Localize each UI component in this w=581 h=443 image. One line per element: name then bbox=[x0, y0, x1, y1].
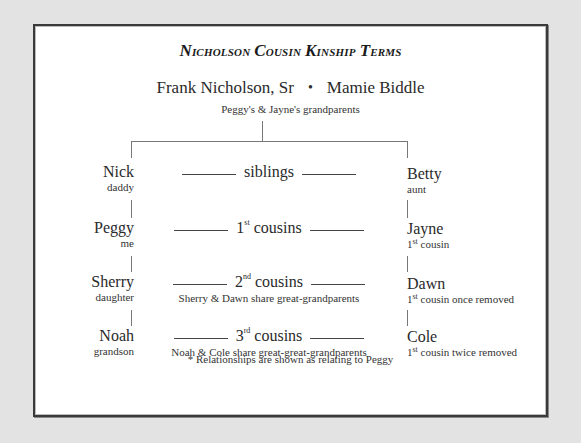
person-peggy: Peggy me bbox=[94, 219, 134, 249]
grandparents-caption: Peggy's & Jayne's grandparents bbox=[0, 103, 581, 115]
relationship-description: Sherry & Dawn share great-grandparents bbox=[150, 292, 388, 304]
connector-betty-jayne bbox=[407, 200, 408, 218]
person-jayne: Jayne 1st cousin bbox=[407, 220, 449, 250]
person-name: Sherry bbox=[91, 273, 134, 291]
connector-sherry-noah bbox=[131, 310, 132, 326]
connector-left-down bbox=[131, 141, 132, 158]
person-name: Peggy bbox=[94, 219, 134, 237]
person-relation: me bbox=[94, 237, 134, 249]
person-relation: aunt bbox=[407, 183, 442, 195]
connector-peggy-sherry bbox=[131, 256, 132, 272]
person-sherry: Sherry daughter bbox=[91, 273, 134, 303]
relationship-label: 1st cousins bbox=[236, 219, 301, 236]
person-name: Jayne bbox=[407, 220, 449, 238]
person-dawn: Dawn 1st cousin once removed bbox=[407, 275, 514, 305]
person-name: Dawn bbox=[407, 275, 514, 293]
connector-dawn-cole bbox=[407, 310, 408, 326]
grandparents-row: Frank Nicholson, Sr•Mamie Biddle bbox=[0, 78, 581, 98]
relationship-siblings: siblings bbox=[150, 163, 388, 181]
chart-title: Nicholson Cousin Kinship Terms bbox=[0, 41, 581, 61]
grandmother-name: Mamie Biddle bbox=[327, 78, 425, 97]
dash-line bbox=[174, 230, 228, 231]
connector-nick-peggy bbox=[131, 200, 132, 218]
dash-line bbox=[302, 174, 356, 175]
person-nick: Nick daddy bbox=[103, 163, 134, 193]
person-name: Betty bbox=[407, 165, 442, 183]
connector-jayne-dawn bbox=[407, 256, 408, 272]
dash-line bbox=[182, 174, 236, 175]
relationship-1st-cousins: 1st cousins bbox=[150, 219, 388, 237]
person-relation: daddy bbox=[103, 181, 134, 193]
person-betty: Betty aunt bbox=[407, 165, 442, 195]
dash-line bbox=[174, 338, 228, 339]
grandfather-name: Frank Nicholson, Sr bbox=[156, 78, 293, 97]
person-relation: daughter bbox=[91, 291, 134, 303]
person-name: Cole bbox=[407, 328, 517, 346]
person-name: Nick bbox=[103, 163, 134, 181]
relationship-label: 2nd cousins bbox=[235, 273, 303, 290]
connector-grandparents-down bbox=[262, 121, 263, 142]
person-name: Noah bbox=[94, 327, 134, 345]
person-relation: 1st cousin bbox=[407, 238, 449, 250]
dash-line bbox=[310, 338, 364, 339]
dash-line bbox=[310, 230, 364, 231]
connector-horizontal bbox=[131, 141, 408, 142]
relationship-2nd-cousins: 2nd cousins Sherry & Dawn share great-gr… bbox=[150, 273, 388, 304]
couple-separator: • bbox=[308, 80, 313, 96]
dash-line bbox=[311, 284, 365, 285]
relationship-label: siblings bbox=[244, 163, 294, 180]
relationship-label: 3rd cousins bbox=[236, 327, 303, 344]
person-relation: 1st cousin once removed bbox=[407, 293, 514, 305]
dash-line bbox=[173, 284, 227, 285]
connector-right-down bbox=[407, 141, 408, 158]
footnote: * Relationships are shown as relating to… bbox=[0, 353, 581, 365]
